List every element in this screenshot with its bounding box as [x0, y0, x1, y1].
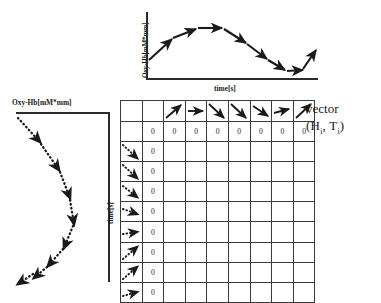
matrix-empty-cell [185, 242, 207, 262]
zero-cell: 0 [142, 122, 164, 142]
matrix-empty-cell [272, 222, 294, 242]
caption-mid: , T [323, 118, 338, 133]
matrix-empty-cell [228, 142, 250, 162]
left-chart-dotted-arrow-series [12, 114, 116, 286]
matrix-empty-cell [185, 222, 207, 242]
matrix-empty-cell [293, 262, 315, 282]
matrix-empty-cell [164, 182, 186, 202]
matrix-empty-cell [164, 282, 186, 302]
matrix-empty-cell [207, 222, 229, 242]
matrix-empty-cell [250, 262, 272, 282]
header-arrow-ne [164, 101, 186, 122]
matrix-empty-cell [250, 282, 272, 302]
matrix-empty-cell [164, 202, 186, 222]
table-row: 0 [121, 162, 315, 182]
matrix-empty-cell [293, 162, 315, 182]
matrix-empty-cell [164, 162, 186, 182]
matrix-empty-cell [250, 142, 272, 162]
table-row: 0 [121, 262, 315, 282]
matrix-empty-cell [185, 282, 207, 302]
matrix-empty-cell [164, 142, 186, 162]
matrix-empty-cell [185, 162, 207, 182]
column-zero-cell: 0 [142, 202, 164, 222]
matrix-header-spacer [142, 101, 164, 122]
row-arrow-e-2 [121, 222, 143, 242]
table-row: 0 [121, 182, 315, 202]
row-arrow-ne-1 [121, 242, 143, 262]
zero-cell: 0 [250, 122, 272, 142]
matrix-empty-cell [207, 262, 229, 282]
top-chart: Oxy-Hb[mM*mm] [118, 8, 323, 94]
matrix-empty-cell [293, 182, 315, 202]
zero-cell: 0 [207, 122, 229, 142]
matrix-empty-cell [185, 262, 207, 282]
matrix-empty-cell [207, 282, 229, 302]
matrix-empty-cell [272, 182, 294, 202]
row-arrow-ne-2 [121, 262, 143, 282]
matrix-empty-cell [293, 202, 315, 222]
matrix-empty-cell [293, 222, 315, 242]
header-arrow-e [185, 101, 207, 122]
table-row: 0 [121, 222, 315, 242]
vector-caption-line1: vector [306, 100, 344, 117]
row-arrow-se-3 [121, 182, 143, 202]
header-arrow-se-1 [207, 101, 229, 122]
matrix-empty-cell [228, 182, 250, 202]
matrix-empty-cell [272, 162, 294, 182]
matrix-empty-cell [272, 242, 294, 262]
row-arrow-se-1 [121, 142, 143, 162]
matrix-corner-cell [121, 101, 143, 122]
row-arrow-se-2 [121, 162, 143, 182]
matrix-empty-cell [293, 142, 315, 162]
column-zero-cell: 0 [142, 222, 164, 242]
matrix-empty-cell [228, 242, 250, 262]
matrix-empty-cell [207, 162, 229, 182]
matrix-empty-cell [272, 262, 294, 282]
matrix-grid: 0 0 0 0 0 0 0 0 0 [120, 100, 315, 303]
vector-caption-line2: (Hi, Ti) [306, 117, 344, 140]
matrix-empty-cell [185, 182, 207, 202]
caption-open-paren: (H [306, 118, 320, 133]
top-chart-x-axis-label: time[s] [214, 84, 236, 93]
matrix-empty-cell [228, 282, 250, 302]
matrix-empty-cell [272, 202, 294, 222]
matrix-empty-cell [185, 142, 207, 162]
column-zero-cell: 0 [142, 262, 164, 282]
matrix-empty-cell [250, 182, 272, 202]
table-row-zeros: 0 0 0 0 0 0 0 0 [121, 122, 315, 142]
table-row: 0 [121, 242, 315, 262]
table-row-header [121, 101, 315, 122]
table-row: 0 [121, 282, 315, 302]
matrix-empty-cell [228, 262, 250, 282]
zero-cell: 0 [185, 122, 207, 142]
matrix-empty-cell [228, 162, 250, 182]
matrix-empty-cell [250, 222, 272, 242]
matrix-empty-cell [272, 142, 294, 162]
matrix-empty-cell [228, 202, 250, 222]
matrix-empty-cell [207, 242, 229, 262]
header-arrow-se-3 [250, 101, 272, 122]
zero-cell: 0 [228, 122, 250, 142]
matrix-empty-cell [207, 202, 229, 222]
column-zero-cell: 0 [142, 242, 164, 262]
matrix-empty-cell [293, 242, 315, 262]
column-zero-cell: 0 [142, 182, 164, 202]
matrix-row-label-empty [121, 122, 143, 142]
vector-caption: vector (Hi, Ti) [306, 100, 344, 140]
matrix-empty-cell [250, 242, 272, 262]
column-zero-cell: 0 [142, 282, 164, 302]
matrix-empty-cell [250, 162, 272, 182]
matrix-empty-cell [293, 282, 315, 302]
zero-cell: 0 [272, 122, 294, 142]
top-chart-plot-area [146, 12, 318, 80]
matrix-empty-cell [164, 222, 186, 242]
left-chart: Oxy-Hb[mM*mm] time[s] [6, 96, 118, 292]
vector-matrix-table: 0 0 0 0 0 0 0 0 0 [120, 100, 315, 303]
matrix-empty-cell [164, 242, 186, 262]
top-chart-x-axis [146, 78, 318, 80]
column-zero-cell: 0 [142, 142, 164, 162]
matrix-empty-cell [185, 202, 207, 222]
row-arrow-e-3 [121, 282, 143, 302]
matrix-empty-cell [207, 142, 229, 162]
